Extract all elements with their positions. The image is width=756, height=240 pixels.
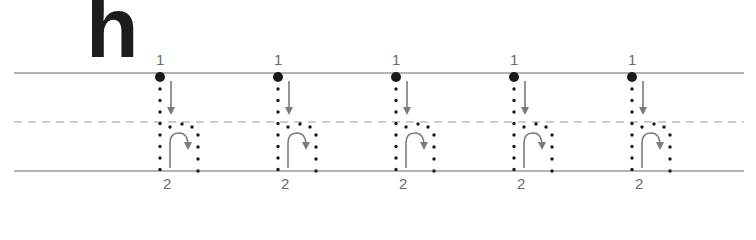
hump-arrow-icon	[524, 133, 542, 168]
trace-dot	[630, 99, 633, 102]
trace-dot	[512, 145, 515, 148]
trace-dot	[652, 122, 655, 125]
trace-dot	[432, 157, 435, 160]
trace-dot	[512, 133, 515, 136]
trace-dot	[512, 156, 515, 159]
hump-arrow-icon	[406, 133, 424, 168]
trace-dot	[276, 110, 279, 113]
trace-dot	[432, 145, 435, 148]
trace-dot	[512, 110, 515, 113]
trace-dot	[426, 125, 429, 128]
trace-dot	[630, 145, 633, 148]
stroke-2-label: 2	[635, 176, 643, 191]
stroke-2-label: 2	[163, 176, 171, 191]
hump-arrow-icon	[642, 133, 660, 168]
trace-dot	[394, 87, 397, 90]
stroke-1-label: 1	[510, 52, 518, 67]
trace-dot	[276, 122, 279, 125]
start-dot-icon	[627, 72, 637, 82]
trace-dot	[416, 122, 419, 125]
trace-dot	[314, 157, 317, 160]
stroke-2-label: 2	[399, 176, 407, 191]
trace-dot	[276, 87, 279, 90]
trace-dot	[158, 110, 161, 113]
trace-dot	[550, 157, 553, 160]
trace-dot	[158, 168, 161, 171]
trace-dot	[394, 156, 397, 159]
trace-dot	[276, 168, 279, 171]
trace-dot	[512, 87, 515, 90]
trace-dot	[158, 99, 161, 102]
trace-dot	[394, 110, 397, 113]
stroke-2-label: 2	[517, 176, 525, 191]
trace-dot	[512, 122, 515, 125]
trace-dot	[314, 145, 317, 148]
trace-dot	[550, 145, 553, 148]
stroke-2-label: 2	[281, 176, 289, 191]
trace-dot	[394, 133, 397, 136]
trace-dot	[668, 145, 671, 148]
trace-dot	[662, 125, 665, 128]
trace-dot	[630, 133, 633, 136]
trace-dot	[394, 145, 397, 148]
trace-dot	[158, 156, 161, 159]
start-dot-icon	[273, 72, 283, 82]
trace-dot	[630, 87, 633, 90]
trace-dot	[158, 87, 161, 90]
trace-dot	[432, 133, 435, 136]
stroke-1-label: 1	[274, 52, 282, 67]
trace-dot	[314, 169, 317, 172]
trace-dot	[158, 133, 161, 136]
trace-dot	[512, 168, 515, 171]
trace-dot	[550, 133, 553, 136]
trace-dot	[640, 125, 643, 128]
trace-dot	[432, 169, 435, 172]
trace-dot	[190, 125, 193, 128]
trace-dot	[286, 125, 289, 128]
trace-dot	[196, 145, 199, 148]
trace-dot	[276, 156, 279, 159]
stroke-1-label: 1	[392, 52, 400, 67]
trace-dot	[196, 133, 199, 136]
trace-dot	[512, 99, 515, 102]
trace-dot	[544, 125, 547, 128]
trace-dot	[276, 145, 279, 148]
hump-arrow-icon	[288, 133, 306, 168]
start-dot-icon	[155, 72, 165, 82]
trace-dot	[668, 169, 671, 172]
trace-dot	[630, 110, 633, 113]
trace-dot	[668, 157, 671, 160]
trace-dot	[180, 122, 183, 125]
trace-dot	[404, 125, 407, 128]
trace-dot	[314, 133, 317, 136]
trace-dot	[196, 157, 199, 160]
start-dot-icon	[509, 72, 519, 82]
trace-dot	[630, 168, 633, 171]
stroke-1-label: 1	[628, 52, 636, 67]
trace-dot	[630, 156, 633, 159]
trace-dot	[394, 122, 397, 125]
trace-dot	[196, 169, 199, 172]
trace-dot	[522, 125, 525, 128]
trace-dot	[168, 125, 171, 128]
trace-dot	[630, 122, 633, 125]
trace-dot	[394, 99, 397, 102]
stroke-1-label: 1	[156, 52, 164, 67]
hump-arrow-icon	[170, 133, 188, 168]
trace-dot	[276, 133, 279, 136]
trace-dot	[668, 133, 671, 136]
start-dot-icon	[391, 72, 401, 82]
trace-dot	[158, 145, 161, 148]
trace-dot	[308, 125, 311, 128]
trace-dot	[298, 122, 301, 125]
trace-dot	[550, 169, 553, 172]
trace-dot	[534, 122, 537, 125]
trace-dot	[158, 122, 161, 125]
trace-dot	[276, 99, 279, 102]
trace-dot	[394, 168, 397, 171]
